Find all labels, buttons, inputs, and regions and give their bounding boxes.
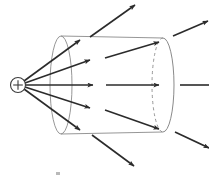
cylinder-top-edge — [61, 36, 163, 38]
field-line-upper-inner — [25, 60, 90, 83]
electric-field-lines — [24, 5, 209, 166]
positive-point-charge — [11, 78, 26, 93]
cylinder-bottom-edge — [61, 132, 163, 134]
field-line-top-escape — [90, 5, 135, 37]
field-line-right-lower — [175, 132, 209, 148]
field-line-right-upper — [173, 21, 208, 36]
field-line-mid-upper-exit — [105, 42, 159, 58]
field-line-mid-lower-exit — [105, 110, 159, 129]
scan-speck — [56, 172, 60, 175]
flux-diagram-figure — [0, 0, 209, 178]
field-line-bottom-escape — [92, 135, 134, 166]
diagram-canvas — [0, 0, 209, 178]
cylinder-right-end-cap-front — [163, 38, 174, 132]
